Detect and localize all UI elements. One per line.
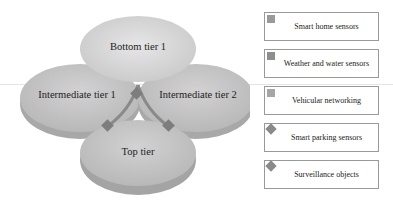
legend-item-smart-home: Smart home sensors [264, 12, 379, 41]
legend-item-smart-parking: Smart parking sensors [264, 123, 379, 152]
legend-item-surveillance: Surveillance objects [264, 160, 379, 189]
square-marker-icon [267, 15, 275, 23]
legend-item-vehicular: Vehicular networking [264, 86, 379, 115]
tier-label-top: Top tier [122, 146, 155, 157]
diamond-marker-icon [265, 160, 276, 171]
tier-label-intermediate-1: Intermediate tier 1 [38, 89, 116, 100]
diamond-marker-icon [265, 123, 276, 134]
square-marker-icon [267, 52, 275, 60]
tier-discs-graphic [0, 0, 250, 202]
disc-top-tier [80, 120, 196, 195]
square-marker-icon [267, 89, 275, 97]
legend-item-weather-water: Weather and water sensors [264, 49, 379, 78]
tier-label-bottom-1: Bottom tier 1 [110, 41, 166, 52]
tier-label-intermediate-2: Intermediate tier 2 [159, 89, 237, 100]
tier-diagram: Bottom tier 1 Intermediate tier 1 Interm… [0, 0, 250, 202]
